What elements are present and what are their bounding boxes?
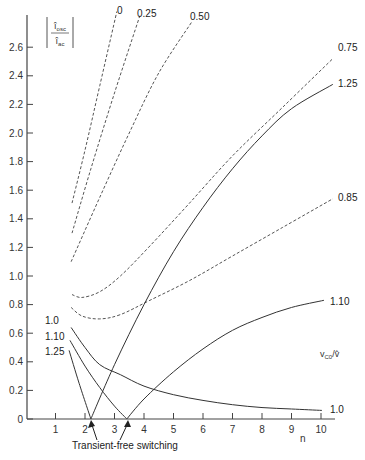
x-tick-label: 5 <box>171 424 177 435</box>
curve-0-85 <box>71 199 333 319</box>
curve-label: 1.10 <box>330 296 350 307</box>
curve-label: 1.10 <box>45 331 65 342</box>
x-tick-label: 2 <box>82 424 88 435</box>
curve-label: 0.50 <box>190 11 210 22</box>
y-tick-label: 1.0 <box>9 271 23 282</box>
y-tick-label: 0 <box>17 414 23 425</box>
x-tick-label: 1 <box>53 424 59 435</box>
curve-label: 1.0 <box>45 315 59 326</box>
curve-label: 0 <box>117 5 123 16</box>
curve-label: 1.25 <box>45 346 65 357</box>
y-tick-label: 2.6 <box>9 42 23 53</box>
y-tick-label: 0.4 <box>9 356 23 367</box>
curve-0-75 <box>72 59 333 298</box>
y-tick-label: 0.6 <box>9 328 23 339</box>
x-axis-label: n <box>300 433 306 444</box>
svg-text:îosc: îosc <box>53 21 66 32</box>
x-tick-label: 6 <box>200 424 206 435</box>
curve-1-0 <box>71 327 322 410</box>
y-tick-label: 1.4 <box>9 213 23 224</box>
annotation: Transient-free switching <box>72 420 178 451</box>
svg-text:îac: îac <box>55 36 65 47</box>
x-tick-label: 3 <box>112 424 118 435</box>
curve-label: 0.75 <box>338 42 358 53</box>
curve-0-50 <box>71 21 192 261</box>
y-tick-label: 2.2 <box>9 99 23 110</box>
y-tick-label: 1.6 <box>9 185 23 196</box>
curve-label: 1.25 <box>338 78 358 89</box>
y-tick-label: 0.8 <box>9 299 23 310</box>
curve-0-25 <box>72 16 140 233</box>
x-tick-label: 7 <box>230 424 236 435</box>
x-tick-label: 4 <box>141 424 147 435</box>
y-tick-label: 1.8 <box>9 156 23 167</box>
curve-label: 0.85 <box>338 192 358 203</box>
curve-1-25 <box>69 84 333 419</box>
curve-label: 0.25 <box>137 8 157 19</box>
y-tick-label: 1.2 <box>9 242 23 253</box>
x-tick-label: 9 <box>289 424 295 435</box>
chart: 00.20.40.60.81.01.21.41.61.82.02.22.42.6… <box>0 0 365 460</box>
axes <box>27 15 335 419</box>
y-tick-label: 2.4 <box>9 70 23 81</box>
curves <box>69 11 333 419</box>
y-axis-label: îosc îac <box>47 17 73 48</box>
x-tick-label: 8 <box>259 424 265 435</box>
y-tick-label: 0.2 <box>9 385 23 396</box>
y-tick-label: 2.0 <box>9 128 23 139</box>
legend-title: vC0/v̂ <box>320 349 340 360</box>
annotation-text: Transient-free switching <box>72 440 178 451</box>
x-tick-label: 10 <box>315 424 327 435</box>
y-ticks: 00.20.40.60.81.01.21.41.61.82.02.22.42.6 <box>9 42 33 425</box>
curve-label: 1.0 <box>330 404 344 415</box>
